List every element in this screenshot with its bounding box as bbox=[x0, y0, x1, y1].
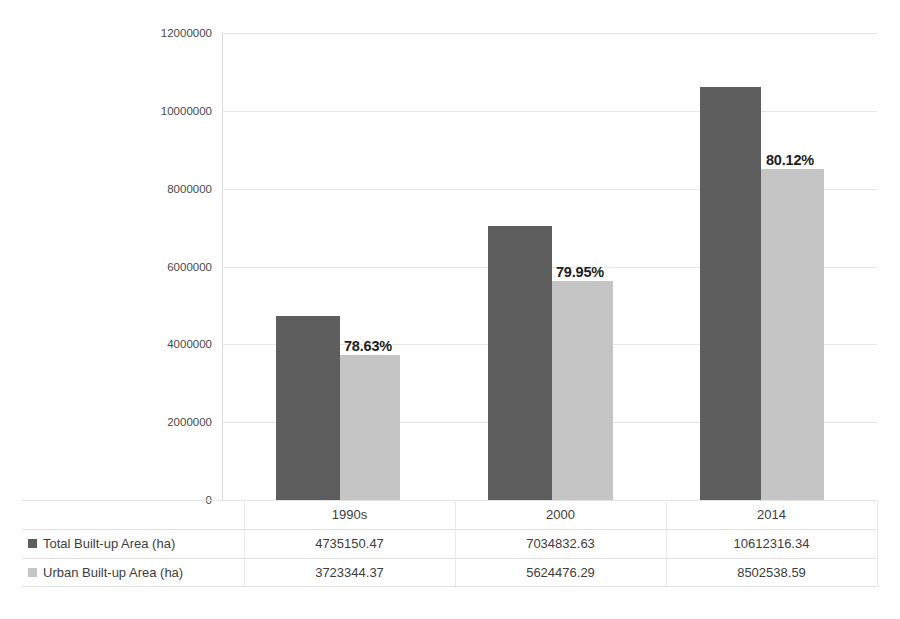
table-cell-total-2014: 10612316.34 bbox=[666, 536, 877, 551]
legend-swatch-icon bbox=[28, 539, 37, 548]
y-tick-label: 12000000 bbox=[102, 27, 212, 39]
table-row: Total Built-up Area (ha) 4735150.47 7034… bbox=[22, 529, 878, 557]
y-tick-label: 10000000 bbox=[102, 105, 212, 117]
legend-item-urban: Urban Built-up Area (ha) bbox=[22, 565, 244, 580]
table-cell-urban-2000: 5624476.29 bbox=[455, 565, 666, 580]
table-header-cell-2000: 2000 bbox=[455, 507, 666, 522]
table-cell-total-2000: 7034832.63 bbox=[455, 536, 666, 551]
y-tick-label: 6000000 bbox=[102, 261, 212, 273]
legend-item-total: Total Built-up Area (ha) bbox=[22, 536, 244, 551]
data-table: 1990s 2000 2014 Total Built-up Area (ha)… bbox=[22, 500, 878, 586]
y-tick-label: 2000000 bbox=[102, 416, 212, 428]
bar-total-2000[interactable] bbox=[488, 226, 552, 500]
table-rule bbox=[22, 586, 878, 587]
bar-urban-2014[interactable] bbox=[761, 169, 824, 500]
table-header-cell-2014: 2014 bbox=[666, 507, 877, 522]
y-tick-label: 4000000 bbox=[102, 338, 212, 350]
y-tick-label: 8000000 bbox=[102, 183, 212, 195]
legend-label-total: Total Built-up Area (ha) bbox=[43, 536, 175, 551]
table-row: Urban Built-up Area (ha) 3723344.37 5624… bbox=[22, 558, 878, 586]
legend-swatch-icon bbox=[28, 568, 37, 577]
bar-urban-1990s[interactable] bbox=[340, 355, 400, 500]
table-header-cell-1990s: 1990s bbox=[244, 507, 455, 522]
table-cell-urban-1990s: 3723344.37 bbox=[244, 565, 455, 580]
y-axis: 12000000 10000000 8000000 6000000 400000… bbox=[100, 33, 212, 500]
bar-urban-2000[interactable] bbox=[552, 281, 613, 500]
bar-group-2014: 80.12% bbox=[700, 33, 824, 500]
table-cell-total-1990s: 4735150.47 bbox=[244, 536, 455, 551]
pct-label-2014: 80.12% bbox=[766, 152, 814, 168]
bar-group-2000: 79.95% bbox=[488, 33, 613, 500]
bar-total-1990s[interactable] bbox=[276, 316, 340, 500]
legend-label-urban: Urban Built-up Area (ha) bbox=[43, 565, 183, 580]
table-cell-urban-2014: 8502538.59 bbox=[666, 565, 877, 580]
bar-total-2014[interactable] bbox=[700, 87, 761, 500]
plot-area: 78.63% 79.95% 80.12% bbox=[222, 33, 877, 500]
chart-page: 12000000 10000000 8000000 6000000 400000… bbox=[0, 0, 900, 619]
pct-label-1990s: 78.63% bbox=[344, 338, 392, 354]
pct-label-2000: 79.95% bbox=[556, 264, 604, 280]
bar-group-1990s: 78.63% bbox=[276, 33, 400, 500]
table-header-row: 1990s 2000 2014 bbox=[22, 500, 878, 528]
